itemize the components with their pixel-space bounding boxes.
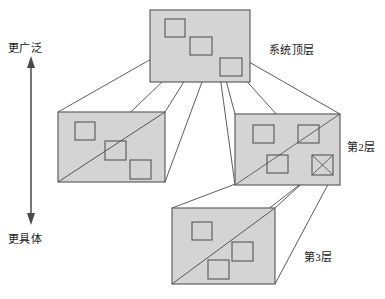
layer-box-third [172,208,275,284]
layer-box-left-second [58,112,165,182]
axis-arrowhead-down-icon [27,213,35,225]
layer-box-top [150,10,250,82]
layer-label-top: 系统顶层 [269,41,314,57]
abstraction-axis-arrow [27,56,35,225]
layer-box-right-second [235,114,340,185]
diagram-canvas: 更广泛 更具体 系统顶层 第2层 第3层 [0,0,385,299]
layer-label-second: 第2层 [347,138,375,154]
layer-label-third: 第3层 [304,248,332,264]
axis-arrowhead-up-icon [27,56,35,68]
axis-label-top: 更广泛 [8,39,42,55]
axis-label-bottom: 更具体 [8,230,42,246]
